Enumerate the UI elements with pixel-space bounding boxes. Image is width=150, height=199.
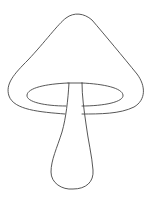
background xyxy=(0,0,150,199)
mushroom-drawing xyxy=(0,0,150,199)
